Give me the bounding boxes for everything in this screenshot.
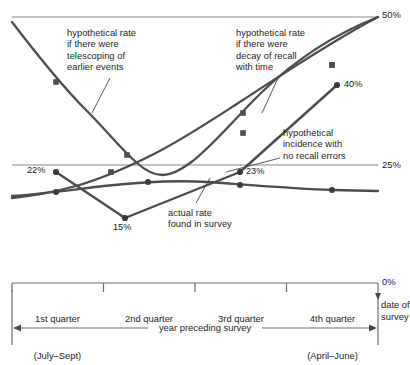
annotation-telescoping: hypothetical rate if there were telescop… [67, 28, 136, 74]
point-label-23: 23% [246, 166, 264, 176]
point-label-15: 15% [113, 222, 131, 232]
leader-telescoping [92, 78, 110, 113]
point-label-22: 22% [27, 165, 45, 175]
y-tick-label-25: 25% [382, 159, 401, 171]
quarter-1-name: 1st quarter [12, 313, 103, 325]
annotation-no-recall-errors: hypothetical incidence with no recall er… [283, 128, 346, 162]
date-of-survey-label: date of survey [381, 299, 410, 322]
quarter-4-name: 4th quarter [287, 313, 378, 325]
span-label-year-preceding-survey: year preceding survey [148, 322, 262, 334]
y-tick-label-0: 0% [382, 276, 396, 288]
quarter-1-sub: (July–Sept) [12, 350, 103, 362]
y-tick-label-50: 50% [382, 9, 401, 21]
quarter-4-sub: (April–June) [287, 350, 378, 362]
annotation-decay: hypothetical rate if there were decay of… [236, 28, 305, 74]
annotation-actual-rate: actual rate found in survey [168, 208, 232, 231]
quarter-label-1: 1st quarter (July–Sept) [12, 288, 103, 365]
point-label-40: 40% [344, 79, 362, 89]
quarter-label-4: 4th quarter (April–June) [287, 288, 378, 365]
